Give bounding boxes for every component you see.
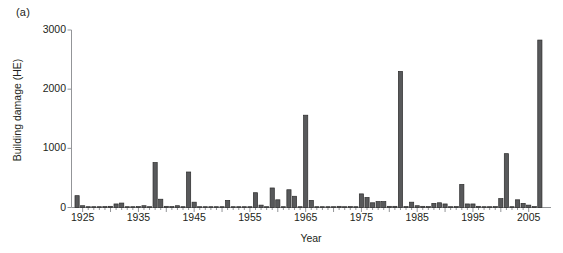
bar (97, 207, 101, 208)
bar (198, 207, 202, 208)
bar (309, 200, 313, 207)
bar (276, 200, 280, 208)
bar (186, 172, 190, 208)
bar (510, 207, 514, 208)
bar (421, 206, 425, 207)
bar (75, 196, 79, 208)
y-tick-label: 1000 (26, 141, 66, 153)
bar (237, 207, 241, 208)
bar (370, 203, 374, 208)
bar (248, 207, 252, 208)
bar (471, 204, 475, 208)
bar (387, 206, 391, 207)
bar (103, 207, 107, 208)
bar (415, 206, 419, 208)
x-tick-label: 2005 (504, 211, 554, 223)
chart-figure: (a) Building damage (HE) 0100020003000 Y… (0, 0, 563, 253)
bar (320, 207, 324, 208)
x-tick-label: 1945 (169, 211, 219, 223)
bar (120, 203, 124, 207)
bar (354, 207, 358, 208)
bar (404, 207, 408, 208)
bar (181, 207, 185, 208)
bar (532, 207, 536, 208)
bar (426, 207, 430, 208)
bar (410, 202, 414, 207)
bar (220, 207, 224, 208)
x-tick-label: 1995 (448, 211, 498, 223)
bar (192, 202, 196, 207)
bar (504, 154, 508, 208)
bar (337, 206, 341, 207)
bar (281, 207, 285, 208)
bar (265, 207, 269, 208)
bar (432, 203, 436, 207)
bar (376, 202, 380, 208)
bar (147, 207, 151, 208)
bar (398, 71, 402, 207)
bar (298, 207, 302, 208)
bar (304, 115, 308, 207)
bar (437, 203, 441, 208)
bar (326, 207, 330, 208)
bar (164, 206, 168, 207)
bar (527, 205, 531, 207)
bar-series (75, 40, 542, 207)
x-tick-label: 1975 (336, 211, 386, 223)
bar (393, 206, 397, 207)
bar (382, 202, 386, 208)
y-tick-label: 2000 (26, 82, 66, 94)
x-tick-label: 1985 (392, 211, 442, 223)
bar (521, 203, 525, 207)
bar (142, 206, 146, 208)
bar (226, 200, 230, 207)
x-tick-label: 1965 (281, 211, 331, 223)
bar (114, 204, 118, 208)
bar (460, 184, 464, 207)
bar (465, 204, 469, 208)
y-axis-tick-marks (68, 30, 72, 208)
bar (292, 196, 296, 207)
bar (86, 207, 90, 208)
y-tick-label: 3000 (26, 23, 66, 35)
bar (253, 193, 257, 208)
x-tick-label: 1925 (58, 211, 108, 223)
bar (515, 200, 519, 208)
bar (359, 194, 363, 208)
bar (538, 40, 542, 207)
bar (203, 207, 207, 208)
bar (493, 207, 497, 208)
x-tick-label: 1955 (225, 211, 275, 223)
x-tick-label: 1935 (113, 211, 163, 223)
bar (242, 207, 246, 208)
bar (175, 206, 179, 208)
bar (454, 207, 458, 208)
axes-lines (72, 30, 552, 208)
bar (108, 206, 112, 207)
bar (331, 207, 335, 208)
bar (482, 207, 486, 208)
bar (259, 205, 263, 207)
bar (131, 207, 135, 208)
bar (231, 207, 235, 208)
bar (365, 197, 369, 207)
bar (443, 204, 447, 208)
bar (125, 207, 129, 208)
bar (270, 188, 274, 208)
bar (449, 207, 453, 208)
bar (159, 199, 163, 207)
bar (81, 206, 85, 208)
bar (499, 199, 503, 208)
bar (348, 207, 352, 208)
x-axis-title: Year (71, 232, 551, 244)
bar (136, 207, 140, 208)
bar (209, 207, 213, 208)
bar (488, 207, 492, 208)
bar (92, 207, 96, 208)
bar (476, 206, 480, 207)
bar (287, 190, 291, 208)
bar (315, 207, 319, 208)
bar (343, 207, 347, 208)
bar (214, 207, 218, 208)
bar (153, 163, 157, 208)
